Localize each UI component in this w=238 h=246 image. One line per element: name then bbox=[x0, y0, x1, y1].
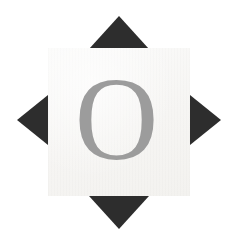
south-marker-triangle-icon bbox=[89, 196, 149, 229]
letter-glyph: O bbox=[75, 61, 159, 179]
north-marker-triangle-icon bbox=[89, 16, 149, 49]
east-marker-triangle-icon bbox=[190, 95, 221, 145]
west-marker-triangle-icon bbox=[17, 95, 48, 145]
letter-tile: O bbox=[48, 48, 190, 196]
image-canvas: O bbox=[0, 0, 238, 246]
